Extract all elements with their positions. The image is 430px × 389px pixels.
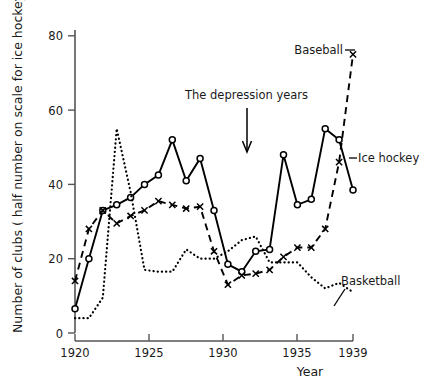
series-label-baseball: Baseball <box>294 43 355 57</box>
x-axis: 1920 1925 1930 1935 1939 Year <box>60 334 367 379</box>
data-point-marker <box>294 202 300 208</box>
x-axis-title: Year <box>296 364 324 379</box>
annotation-depression: The depression years <box>184 88 308 152</box>
data-point-marker <box>281 152 287 158</box>
y-tick-label-20: 20 <box>48 252 63 266</box>
series-label-basketball: Basketball <box>334 274 401 306</box>
data-point-marker <box>86 256 92 262</box>
data-point-marker <box>183 178 189 184</box>
series-label-ice-hockey: Ice hockey <box>349 151 419 165</box>
data-point-marker <box>280 254 286 260</box>
data-point-marker <box>142 181 148 187</box>
data-point-marker <box>322 126 328 132</box>
data-point-marker <box>350 51 356 57</box>
y-tick-label-40: 40 <box>48 178 63 192</box>
y-axis: 0 20 40 60 80 Number of clubs ( half num… <box>10 0 75 341</box>
x-tick-label-1939: 1939 <box>338 346 367 360</box>
data-point-marker <box>350 187 356 193</box>
data-point-marker <box>197 155 203 161</box>
data-point-marker <box>114 202 120 208</box>
y-tick-label-60: 60 <box>48 104 63 118</box>
basketball-label-text: Basketball <box>341 274 401 288</box>
baseball-label-text: Baseball <box>294 43 343 57</box>
data-point-marker <box>114 220 120 226</box>
series-ice-hockey <box>72 126 356 312</box>
x-tick-label-1935: 1935 <box>282 346 311 360</box>
series-baseball <box>72 51 356 288</box>
depression-note-text: The depression years <box>184 88 308 102</box>
y-tick-label-0: 0 <box>56 327 63 341</box>
data-point-marker <box>72 306 78 312</box>
data-point-marker <box>155 172 161 178</box>
series-line <box>75 129 353 309</box>
y-tick-label-80: 80 <box>48 29 63 43</box>
chart-svg: 0 20 40 60 80 Number of clubs ( half num… <box>0 0 430 389</box>
x-tick-label-1930: 1930 <box>208 346 237 360</box>
data-point-marker <box>211 207 217 213</box>
x-tick-label-1920: 1920 <box>60 346 89 360</box>
chart-figure: 0 20 40 60 80 Number of clubs ( half num… <box>0 0 430 389</box>
y-axis-title: Number of clubs ( half number on scale f… <box>10 0 25 333</box>
data-point-marker <box>225 261 231 267</box>
data-point-marker <box>267 246 273 252</box>
data-point-marker <box>253 248 259 254</box>
ice-hockey-label-text: Ice hockey <box>358 151 419 165</box>
data-point-marker <box>336 137 342 143</box>
data-point-marker <box>169 137 175 143</box>
x-tick-label-1925: 1925 <box>134 346 163 360</box>
data-point-marker <box>308 196 314 202</box>
